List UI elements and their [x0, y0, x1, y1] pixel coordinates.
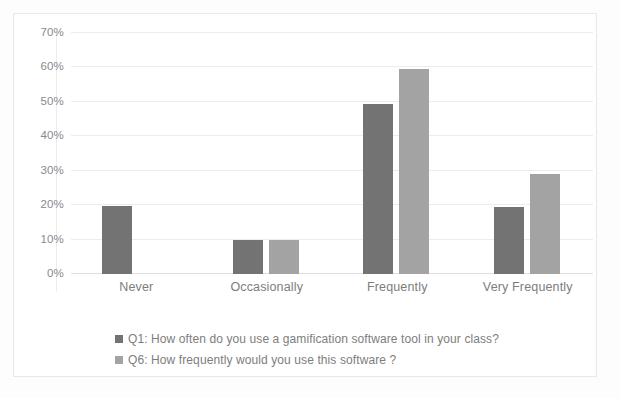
legend-item[interactable]: Q6: How frequently would you use this so… [115, 349, 585, 370]
plot-area: 0%10%20%30%40%50%60%70% [71, 33, 593, 274]
bar[interactable] [269, 240, 299, 274]
y-axis-tick-label: 70% [40, 26, 64, 38]
x-axis-label-frequently: Frequently [367, 280, 428, 294]
bar[interactable] [102, 206, 132, 274]
bar[interactable] [530, 174, 560, 274]
y-axis-tick-label: 40% [40, 129, 64, 141]
bar-group [71, 33, 202, 274]
y-axis-tick-label: 30% [40, 164, 64, 176]
legend-swatch-icon [115, 356, 123, 364]
legend-swatch-icon [115, 335, 123, 343]
y-axis-tick-label: 60% [40, 60, 64, 72]
x-axis-label-never: Never [119, 280, 153, 294]
bar[interactable] [399, 69, 429, 274]
y-axis-tick-label: 0% [47, 267, 64, 279]
x-axis-labels: NeverOccasionallyFrequentlyVery Frequent… [71, 280, 593, 304]
y-axis-tick-label: 50% [40, 95, 64, 107]
bar-group [463, 33, 594, 274]
chart-frame: 0%10%20%30%40%50%60%70% NeverOccasionall… [13, 13, 597, 377]
y-axis-tick-label: 10% [40, 233, 64, 245]
y-axis-tick-label: 20% [40, 198, 64, 210]
bar[interactable] [494, 207, 524, 274]
legend-label: Q6: How frequently would you use this so… [128, 353, 396, 367]
bar-group [202, 33, 333, 274]
x-axis-label-very-frequently: Very Frequently [483, 280, 573, 294]
bars-layer [71, 33, 593, 274]
x-axis-label-occasionally: Occasionally [230, 280, 303, 294]
bar[interactable] [363, 104, 393, 274]
legend-label: Q1: How often do you use a gamification … [128, 332, 499, 346]
chart-legend: Q1: How often do you use a gamification … [115, 328, 585, 370]
legend-item[interactable]: Q1: How often do you use a gamification … [115, 328, 585, 349]
bar-group [332, 33, 463, 274]
bar[interactable] [233, 240, 263, 274]
